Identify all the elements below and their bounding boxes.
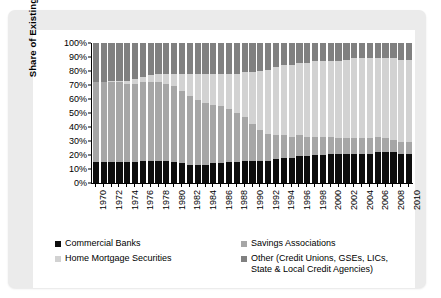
y-axis-tick-label: 50% [69, 108, 87, 118]
x-axis-tick-mark [142, 184, 143, 187]
x-axis-tick-mark [220, 184, 221, 187]
y-axis-tick-label: 10% [69, 164, 87, 174]
stack-segment [202, 74, 208, 103]
stack-column [296, 43, 302, 183]
legend-item[interactable]: Commercial Banks [55, 238, 141, 249]
stack-segment [320, 137, 326, 155]
stack-segment [312, 155, 318, 183]
stack-segment [359, 58, 365, 138]
stack-segment [382, 43, 388, 58]
stack-column [382, 43, 388, 183]
stack-column [163, 43, 169, 183]
stack-segment [140, 82, 146, 160]
x-axis-tick-mark [400, 184, 401, 187]
x-axis-tick-mark [197, 184, 198, 187]
stack-segment [351, 58, 357, 138]
legend-label: Other (Credit Unions, GSEs, LICs, State … [251, 253, 388, 274]
stack-segment [116, 82, 122, 162]
x-axis-tick-label: 1970 [98, 190, 108, 210]
stack-segment [140, 77, 146, 83]
stack-segment [367, 154, 373, 183]
legend-item[interactable]: Other (Credit Unions, GSEs, LICs, State … [241, 253, 388, 274]
x-axis-tick-mark [134, 184, 135, 187]
stack-segment [343, 60, 349, 138]
stack-column [171, 43, 177, 183]
stack-segment [140, 43, 146, 77]
stack-segment [265, 134, 271, 161]
x-axis-tick-label: 2002 [349, 190, 359, 210]
stack-segment [359, 138, 365, 153]
stack-segment [226, 74, 232, 109]
stack-segment [273, 159, 279, 183]
legend-item[interactable]: Home Mortgage Securities [55, 253, 172, 264]
stack-segment [367, 43, 373, 58]
chart-legend: Commercial BanksSavings AssociationsHome… [55, 238, 413, 284]
stack-segment [265, 161, 271, 183]
stack-segment [351, 43, 357, 58]
stack-segment [312, 43, 318, 61]
stack-segment [93, 43, 99, 82]
stack-segment [132, 162, 138, 183]
stack-segment [382, 58, 388, 138]
stack-segment [328, 137, 334, 154]
stack-column [273, 43, 279, 183]
stack-segment [179, 43, 185, 74]
chart-card: Share of Existing Loans 100%90%80%70%60%… [33, 30, 415, 288]
stack-segment [148, 82, 154, 160]
stack-segment [132, 79, 138, 83]
x-axis-tick-label: 2008 [396, 190, 406, 210]
x-axis-tick-label: 2006 [380, 190, 390, 210]
stack-segment [163, 74, 169, 84]
x-axis-tick-mark [267, 184, 268, 187]
stack-segment [257, 130, 263, 161]
stack-segment [101, 82, 107, 162]
legend-item[interactable]: Savings Associations [241, 238, 336, 249]
stack-segment [335, 154, 341, 183]
stack-column [375, 43, 381, 183]
stack-segment [179, 91, 185, 164]
stack-segment [343, 154, 349, 183]
stack-segment [398, 142, 404, 153]
x-axis-tick-mark [306, 184, 307, 187]
x-axis-tick-mark [189, 184, 190, 187]
plot-area [91, 43, 413, 184]
stacked-area-chart: Share of Existing Loans 100%90%80%70%60%… [33, 30, 415, 235]
stack-segment [273, 67, 279, 136]
stack-segment [163, 161, 169, 183]
stack-column [281, 43, 287, 183]
x-axis-tick-label: 1990 [255, 190, 265, 210]
x-axis-tick-mark [103, 184, 104, 187]
stack-segment [296, 43, 302, 63]
stack-segment [195, 74, 201, 101]
stack-column [289, 43, 295, 183]
x-axis-tick-mark [181, 184, 182, 187]
stack-segment [304, 137, 310, 157]
x-axis-tick-mark [244, 184, 245, 187]
stack-segment [375, 137, 381, 152]
x-axis-tick-mark [377, 184, 378, 187]
stack-segment [257, 43, 263, 71]
x-axis-tick-label: 1998 [318, 190, 328, 210]
stack-segment [226, 43, 232, 74]
stack-segment [242, 161, 248, 183]
x-axis-tick-label: 1996 [302, 190, 312, 210]
stack-segment [124, 162, 130, 183]
stack-segment [218, 106, 224, 163]
x-axis-tick-mark [118, 184, 119, 187]
y-axis-ticks: 100%90%80%70%60%50%40%30%20%10%0% [47, 43, 91, 188]
stack-segment [108, 43, 114, 81]
stack-segment [179, 163, 185, 183]
stack-segment [155, 74, 161, 82]
stack-segment [132, 43, 138, 79]
stack-segment [163, 84, 169, 161]
stack-segment [210, 163, 216, 183]
y-axis-tick-label: 20% [69, 150, 87, 160]
x-axis-tick-mark [173, 184, 174, 187]
stack-segment [155, 161, 161, 183]
stack-column [398, 43, 404, 183]
stack-segment [234, 162, 240, 183]
stack-segment [202, 103, 208, 165]
stack-segment [226, 109, 232, 162]
x-axis-tick-mark [345, 184, 346, 187]
stack-segment [312, 61, 318, 137]
